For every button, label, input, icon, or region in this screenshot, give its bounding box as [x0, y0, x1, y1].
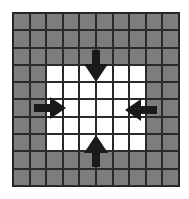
- shaded-cell: [162, 82, 179, 99]
- shaded-cell: [113, 13, 130, 30]
- white-cell: [79, 82, 96, 99]
- shaded-cell: [129, 13, 146, 30]
- shaded-cell: [162, 65, 179, 82]
- shaded-cell: [162, 13, 179, 30]
- shaded-cell: [30, 30, 47, 47]
- shaded-cell: [113, 30, 130, 47]
- shaded-cell: [63, 13, 80, 30]
- shaded-cell: [162, 30, 179, 47]
- shaded-cell: [162, 117, 179, 134]
- white-cell: [46, 117, 63, 134]
- shaded-cell: [113, 48, 130, 65]
- arrow-right-icon: [34, 97, 66, 119]
- shaded-cell: [13, 82, 30, 99]
- white-cell: [96, 99, 113, 116]
- shaded-cell: [146, 48, 163, 65]
- white-cell: [63, 65, 80, 82]
- shaded-cell: [13, 65, 30, 82]
- shaded-cell: [13, 169, 30, 186]
- shaded-cell: [46, 13, 63, 30]
- shaded-cell: [63, 48, 80, 65]
- shaded-cell: [46, 30, 63, 47]
- white-cell: [79, 117, 96, 134]
- shaded-cell: [46, 169, 63, 186]
- shaded-cell: [162, 151, 179, 168]
- shaded-cell: [146, 151, 163, 168]
- shaded-cell: [79, 13, 96, 30]
- shaded-cell: [30, 169, 47, 186]
- arrow-down-icon: [84, 50, 108, 82]
- white-cell: [46, 134, 63, 151]
- shaded-cell: [13, 99, 30, 116]
- shaded-cell: [96, 30, 113, 47]
- white-cell: [63, 134, 80, 151]
- shaded-cell: [146, 30, 163, 47]
- shaded-cell: [129, 151, 146, 168]
- arrow-left-icon: [125, 99, 157, 121]
- shaded-cell: [13, 151, 30, 168]
- arrow-up-icon: [84, 135, 108, 167]
- shaded-cell: [162, 169, 179, 186]
- shaded-cell: [79, 169, 96, 186]
- shaded-cell: [30, 151, 47, 168]
- shaded-cell: [30, 48, 47, 65]
- shaded-cell: [129, 169, 146, 186]
- shaded-cell: [13, 48, 30, 65]
- shaded-cell: [146, 13, 163, 30]
- shaded-cell: [162, 99, 179, 116]
- white-cell: [46, 65, 63, 82]
- shaded-cell: [63, 30, 80, 47]
- white-cell: [113, 65, 130, 82]
- shaded-cell: [113, 151, 130, 168]
- shaded-cell: [146, 82, 163, 99]
- shaded-cell: [30, 65, 47, 82]
- shaded-cell: [30, 134, 47, 151]
- shaded-cell: [146, 134, 163, 151]
- white-cell: [113, 82, 130, 99]
- shaded-cell: [63, 169, 80, 186]
- shaded-cell: [13, 13, 30, 30]
- shaded-cell: [129, 48, 146, 65]
- shaded-cell: [30, 117, 47, 134]
- white-cell: [113, 134, 130, 151]
- shaded-cell: [96, 13, 113, 30]
- shaded-cell: [63, 151, 80, 168]
- shaded-cell: [162, 134, 179, 151]
- shaded-cell: [30, 13, 47, 30]
- shaded-cell: [13, 30, 30, 47]
- shaded-cell: [129, 30, 146, 47]
- shaded-cell: [113, 169, 130, 186]
- white-cell: [129, 82, 146, 99]
- shaded-cell: [13, 117, 30, 134]
- white-cell: [96, 82, 113, 99]
- shaded-cell: [46, 151, 63, 168]
- shaded-cell: [79, 30, 96, 47]
- shaded-cell: [46, 48, 63, 65]
- white-cell: [96, 117, 113, 134]
- shaded-cell: [162, 48, 179, 65]
- shaded-cell: [146, 65, 163, 82]
- white-cell: [79, 99, 96, 116]
- white-cell: [63, 117, 80, 134]
- shaded-cell: [146, 169, 163, 186]
- white-cell: [129, 134, 146, 151]
- shaded-cell: [96, 169, 113, 186]
- shaded-cell: [13, 134, 30, 151]
- white-cell: [129, 65, 146, 82]
